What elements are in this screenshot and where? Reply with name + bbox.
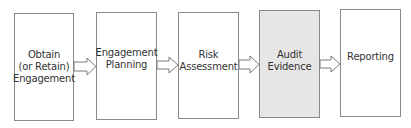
- arrow-right-icon: [157, 57, 178, 73]
- arrow-right-icon: [239, 56, 259, 73]
- connector-arrows: [0, 0, 411, 128]
- arrow-right-icon: [74, 58, 96, 75]
- audit-process-diagram: Obtain (or Retain) Engagement Engagement…: [0, 0, 411, 128]
- arrow-right-icon: [320, 56, 340, 72]
